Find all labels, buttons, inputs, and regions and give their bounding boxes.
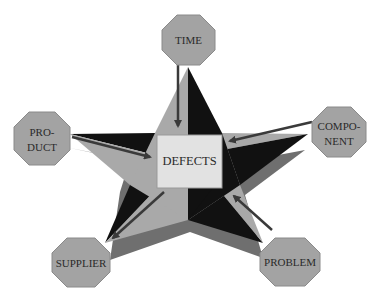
center-box-defects: DEFECTS <box>157 135 222 188</box>
node-problem: PROBLEM <box>260 238 320 286</box>
node-label-line-2: DUCT <box>27 141 57 153</box>
node-label-line-2: NENT <box>324 135 354 147</box>
octagon-shape <box>14 112 70 165</box>
defects-star-diagram: DEFECTS TIME COMPO- NENT PROBLEM SUPPLIE… <box>0 0 377 299</box>
node-time: TIME <box>162 15 215 65</box>
node-supplier: SUPPLIER <box>52 238 110 287</box>
node-label-line-1: PRO- <box>29 126 54 138</box>
node-label-line-1: COMPO- <box>318 120 361 132</box>
center-label: DEFECTS <box>162 154 216 168</box>
node-label: PROBLEM <box>264 256 316 268</box>
node-label: TIME <box>175 34 202 46</box>
node-product: PRO- DUCT <box>14 112 70 165</box>
node-component: COMPO- NENT <box>312 107 366 157</box>
node-label: SUPPLIER <box>56 257 107 269</box>
octagon-shape <box>312 107 366 157</box>
